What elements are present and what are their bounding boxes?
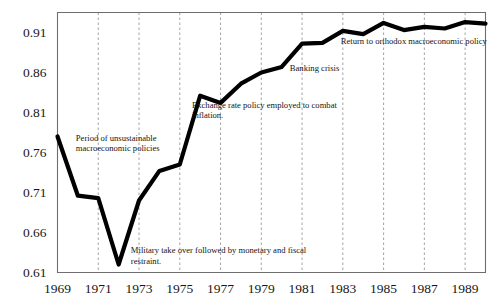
x-tick-1981: 1981 [289, 281, 316, 296]
annotation-line: Banking crisis [290, 63, 340, 73]
annotation-line: restraint. [131, 256, 161, 266]
x-tick-1979: 1979 [248, 281, 275, 296]
y-tick-0.76: 0.76 [23, 145, 47, 160]
annotation-line: macroeconomic policies [76, 143, 160, 153]
annotation-return-to-orthodox-macroeconomic-policy: Return to orthodox macroeconomic policy [341, 36, 488, 46]
y-tick-0.91: 0.91 [23, 25, 47, 40]
x-tick-1971: 1971 [85, 281, 112, 296]
annotation-line: Military take over followed by monetary … [131, 245, 307, 255]
chart-container: 0.610.660.710.760.810.860.91 19691971197… [0, 0, 502, 305]
annotation-banking-crisis: Banking crisis [290, 63, 340, 73]
x-tick-1977: 1977 [207, 281, 234, 296]
y-tick-0.71: 0.71 [23, 185, 47, 200]
x-tick-1975: 1975 [166, 281, 193, 296]
annotation-period-of-unsustainable-macroeconomic-policies: Period of unsustainablemacroeconomic pol… [76, 133, 160, 154]
annotation-line: inflation. [192, 110, 223, 120]
line-chart: 0.610.660.710.760.810.860.91 19691971197… [0, 0, 502, 305]
y-tick-0.61: 0.61 [23, 265, 47, 280]
x-tick-1983: 1983 [329, 281, 356, 296]
x-axis-tick-labels: 1969197119731975197719791981198319851987… [44, 281, 479, 296]
y-tick-0.66: 0.66 [23, 225, 47, 240]
x-tick-1985: 1985 [370, 281, 397, 296]
x-tick-1973: 1973 [126, 281, 153, 296]
x-tick-1969: 1969 [44, 281, 71, 296]
annotation-line: Exchange rate policy employed to combat [192, 100, 337, 110]
annotation-line: Return to orthodox macroeconomic policy [341, 36, 488, 46]
y-tick-0.86: 0.86 [23, 65, 47, 80]
x-tick-1987: 1987 [411, 281, 438, 296]
annotation-line: Period of unsustainable [76, 133, 157, 143]
y-tick-0.81: 0.81 [23, 105, 47, 120]
x-tick-1989: 1989 [452, 281, 479, 296]
